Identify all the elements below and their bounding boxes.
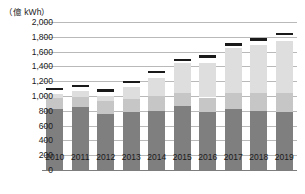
bar-segment-middle-segment (148, 96, 165, 110)
x-axis-tick-label: 2015 (170, 152, 196, 162)
bar-group (250, 22, 267, 170)
bar-segment-upper-segment (97, 96, 114, 101)
bar-segment-middle-segment (225, 93, 242, 109)
bar-group (276, 22, 293, 170)
total-marker (46, 88, 63, 91)
x-axis-tick-label: 2011 (68, 152, 94, 162)
x-axis-tick-label: 2017 (221, 152, 247, 162)
y-axis-tick-label: 800 (17, 106, 53, 116)
bar-segment-upper-segment (225, 48, 242, 94)
y-axis-tick-label: 1,600 (17, 47, 53, 57)
bar-segment-upper-segment (148, 78, 165, 97)
y-axis-tick-label: 1,800 (17, 32, 53, 42)
bar-group (225, 22, 242, 170)
x-axis-tick-label: 2014 (144, 152, 170, 162)
total-marker (148, 71, 165, 74)
bar-group (97, 22, 114, 170)
bar-segment-upper-segment (174, 63, 191, 94)
plot-area (42, 22, 297, 170)
total-marker (72, 85, 89, 88)
bar-segment-middle-segment (97, 101, 114, 114)
x-axis-tick-label: 2010 (42, 152, 68, 162)
total-marker (276, 33, 293, 36)
bar-group (199, 22, 216, 170)
total-marker (174, 59, 191, 62)
y-axis-tick-label: 1,400 (17, 61, 53, 71)
axis-baseline (42, 170, 297, 171)
bar-segment-upper-segment (250, 45, 267, 93)
bar-segment-middle-segment (72, 97, 89, 107)
chart-container: （億 kWh） 2,0001,8001,6001,4001,2001,00080… (0, 0, 305, 194)
total-marker (199, 55, 216, 58)
bar-segment-middle-segment (276, 93, 293, 112)
bar-segment-upper-segment (123, 87, 140, 98)
bar-segment-middle-segment (250, 93, 267, 110)
y-axis-tick-label: 2,000 (17, 17, 53, 27)
y-axis-tick-label: 1,000 (17, 91, 53, 101)
bar-group (148, 22, 165, 170)
y-axis-tick-label: 1,200 (17, 76, 53, 86)
bar-segment-upper-segment (199, 63, 216, 97)
bar-segment-middle-segment (174, 93, 191, 106)
bar-segment-middle-segment (199, 98, 216, 112)
bar-group (174, 22, 191, 170)
x-axis-tick-label: 2019 (272, 152, 298, 162)
bar-group (72, 22, 89, 170)
x-axis-tick-label: 2013 (119, 152, 145, 162)
total-marker (97, 89, 114, 92)
bar-segment-upper-segment (276, 41, 293, 94)
bar-group (123, 22, 140, 170)
axis-unit-label: （億 kWh） (4, 5, 50, 17)
x-axis-tick-label: 2012 (93, 152, 119, 162)
bar-segment-upper-segment (72, 91, 89, 97)
y-axis-tick-label: 600 (17, 121, 53, 131)
total-marker (250, 38, 267, 41)
x-axis-tick-label: 2016 (195, 152, 221, 162)
total-marker (123, 81, 140, 84)
bar-segment-middle-segment (123, 99, 140, 113)
total-marker (225, 43, 242, 46)
x-axis-tick-label: 2018 (246, 152, 272, 162)
y-axis-tick-label: 0 (17, 165, 53, 175)
y-axis-tick-label: 400 (17, 135, 53, 145)
